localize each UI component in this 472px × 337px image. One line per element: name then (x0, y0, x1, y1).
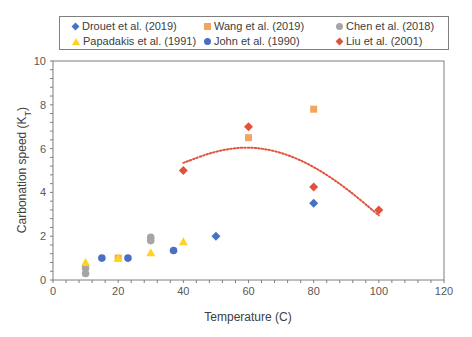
data-point (309, 182, 318, 191)
x-tick-label: 0 (50, 285, 56, 297)
data-point (124, 254, 132, 262)
polynomial-trendline (183, 148, 379, 216)
x-tick-label: 40 (177, 285, 189, 297)
y-tick-label: 8 (40, 99, 46, 111)
axis-ticks: 0204060801001200246810 (34, 55, 453, 297)
y-tick-label: 0 (40, 274, 46, 286)
data-point (147, 233, 155, 241)
data-point (211, 232, 220, 241)
data-point (146, 248, 155, 256)
y-tick-label: 4 (40, 186, 46, 198)
data-point (310, 106, 317, 113)
data-point (245, 134, 252, 141)
scatter-chart: 0204060801001200246810 Temperature (C) C… (0, 0, 472, 337)
data-point (179, 237, 188, 245)
y-tick-label: 6 (40, 143, 46, 155)
x-tick-label: 120 (435, 285, 453, 297)
x-axis-title: Temperature (C) (204, 310, 291, 324)
y-axis-title: Carbonation speed (KT) (15, 107, 33, 233)
x-tick-label: 60 (242, 285, 254, 297)
trendline (183, 148, 379, 216)
y-tick-label: 10 (34, 55, 46, 67)
x-tick-label: 20 (112, 285, 124, 297)
data-points (81, 106, 383, 278)
data-point (179, 166, 188, 175)
x-tick-label: 100 (370, 285, 388, 297)
data-point (98, 254, 106, 262)
data-point (170, 247, 178, 255)
data-point (244, 122, 253, 131)
plot-frame (53, 61, 444, 280)
x-tick-label: 80 (308, 285, 320, 297)
data-point (81, 258, 90, 266)
y-tick-label: 2 (40, 230, 46, 242)
data-point (309, 199, 318, 208)
